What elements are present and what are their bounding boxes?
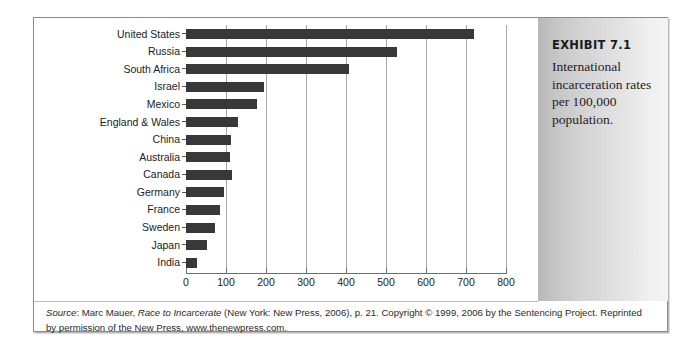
bar-track (186, 60, 538, 78)
bar-india (186, 258, 197, 268)
chart-row: England & Wales (34, 113, 538, 131)
bar-track (186, 201, 538, 219)
chart-row: South Africa (34, 60, 538, 78)
chart-row: Mexico (34, 95, 538, 113)
bar-track (186, 166, 538, 184)
category-label-sweden: Sweden (34, 222, 180, 233)
category-label-france: France (34, 204, 180, 215)
chart-row: Japan (34, 236, 538, 254)
category-label-germany: Germany (34, 187, 180, 198)
category-label-india: India (34, 257, 180, 268)
bar-france (186, 205, 220, 215)
incarceration-bar-chart: United StatesRussiaSouth AfricaIsraelMex… (34, 18, 538, 301)
exhibit-figure-frame: United StatesRussiaSouth AfricaIsraelMex… (33, 17, 668, 332)
source-note: Source: Marc Mauer, Race to Incarcerate … (46, 306, 654, 335)
x-tick-500 (386, 268, 387, 274)
category-label-canada: Canada (34, 169, 180, 180)
bar-australia (186, 152, 230, 162)
bar-sweden (186, 223, 215, 233)
bar-germany (186, 187, 224, 197)
bar-canada (186, 170, 232, 180)
category-label-united-states: United States (34, 29, 180, 40)
bar-track (186, 25, 538, 43)
x-tick-100 (226, 268, 227, 274)
category-label-japan: Japan (34, 240, 180, 251)
chart-plot-area: United StatesRussiaSouth AfricaIsraelMex… (34, 25, 538, 273)
x-tick-0 (186, 268, 187, 274)
x-tick-label-500: 500 (377, 276, 395, 288)
bar-track (186, 78, 538, 96)
bar-track (186, 95, 538, 113)
category-label-south-africa: South Africa (34, 64, 180, 75)
x-tick-800 (506, 268, 507, 274)
x-tick-label-400: 400 (337, 276, 355, 288)
bar-mexico (186, 99, 257, 109)
category-label-china: China (34, 134, 180, 145)
bar-track (186, 113, 538, 131)
bar-united-states (186, 29, 474, 39)
bar-track (186, 219, 538, 237)
chart-row: Israel (34, 78, 538, 96)
source-book-title: Race to Incarcerate (138, 307, 222, 318)
category-label-mexico: Mexico (34, 99, 180, 110)
bar-england-wales (186, 117, 238, 127)
category-label-israel: Israel (34, 81, 180, 92)
bar-track (186, 43, 538, 61)
x-tick-700 (466, 268, 467, 274)
x-tick-label-700: 700 (457, 276, 475, 288)
x-tick-400 (346, 268, 347, 274)
x-tick-label-300: 300 (297, 276, 315, 288)
x-tick-label-100: 100 (217, 276, 235, 288)
chart-row: France (34, 201, 538, 219)
bar-japan (186, 240, 207, 250)
x-tick-600 (426, 268, 427, 274)
x-tick-300 (306, 268, 307, 274)
source-text-a: : Marc Mauer, (76, 307, 137, 318)
x-tick-label-200: 200 (257, 276, 275, 288)
chart-row: China (34, 131, 538, 149)
category-label-russia: Russia (34, 46, 180, 57)
chart-row: Germany (34, 183, 538, 201)
chart-row: Sweden (34, 219, 538, 237)
x-tick-200 (266, 268, 267, 274)
bar-track (186, 131, 538, 149)
x-axis-tick-labels: 0100200300400500600700800 (186, 276, 507, 290)
exhibit-caption: International incarceration rates per 10… (552, 58, 657, 128)
source-label: Source (46, 307, 76, 318)
chart-row: Canada (34, 166, 538, 184)
source-text-b: (New York: New Press, 2006), p. 21. Copy… (221, 307, 511, 318)
category-label-australia: Australia (34, 152, 180, 163)
x-tick-label-800: 800 (497, 276, 515, 288)
category-label-england-wales: England & Wales (34, 117, 180, 128)
x-axis-ticks (186, 268, 507, 274)
exhibit-number-title: EXHIBIT 7.1 (552, 38, 657, 52)
bar-russia (186, 47, 397, 57)
bar-track (186, 183, 538, 201)
bar-china (186, 135, 231, 145)
bar-south-africa (186, 64, 349, 74)
bar-track (186, 148, 538, 166)
x-tick-label-0: 0 (183, 276, 189, 288)
chart-row: Russia (34, 43, 538, 61)
chart-row: United States (34, 25, 538, 43)
bar-israel (186, 82, 264, 92)
chart-row: Australia (34, 148, 538, 166)
source-separator (34, 301, 538, 302)
exhibit-side-panel: EXHIBIT 7.1 International incarceration … (538, 18, 668, 301)
bar-track (186, 236, 538, 254)
x-tick-label-600: 600 (417, 276, 435, 288)
